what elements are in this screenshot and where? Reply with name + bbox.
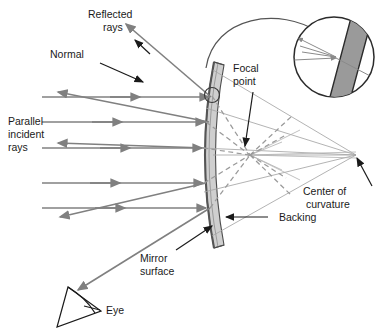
leader-focal-point: [245, 92, 253, 146]
focal-ext-2: [250, 155, 356, 158]
ray-diagram-svg: Reflected rays Normal Parallel incident …: [0, 0, 388, 333]
figure-canvas: Reflected rays Normal Parallel incident …: [0, 0, 388, 333]
leader-normal: [100, 63, 143, 82]
magnifier-detail: [294, 14, 374, 100]
label-normal: Normal: [50, 48, 84, 60]
label-center-of-curvature: Center of curvature: [303, 185, 350, 210]
label-reflected-rays: Reflected rays: [88, 8, 135, 33]
reflected-ray-4: [60, 183, 206, 217]
label-focal-point: Focal point: [233, 62, 262, 87]
reflected-ray-5: [78, 208, 210, 290]
eye-icon: [57, 287, 101, 327]
focal-ext-5: [250, 142, 282, 155]
eye-cone: [57, 287, 101, 327]
label-eye: Eye: [106, 304, 124, 316]
radius-line-2: [206, 108, 356, 155]
label-backing: Backing: [279, 211, 317, 223]
leader-mirror-surface: [176, 226, 212, 250]
focal-dash-9: [250, 155, 286, 178]
focal-dash-7: [250, 155, 292, 196]
focal-dash-6: [250, 116, 292, 155]
eye-lens-arc: [68, 287, 95, 313]
focal-ext-6: [250, 155, 282, 170]
incident-rays-group: [42, 97, 209, 208]
label-mirror-surface: Mirror surface: [140, 252, 175, 277]
reflected-rays-group: [58, 24, 211, 290]
reflected-ray-1: [126, 24, 211, 97]
label-parallel-incident-rays: Parallel incident rays: [8, 115, 47, 153]
leader-center-of-curvature: [357, 158, 372, 186]
focal-dash-1: [212, 96, 250, 155]
